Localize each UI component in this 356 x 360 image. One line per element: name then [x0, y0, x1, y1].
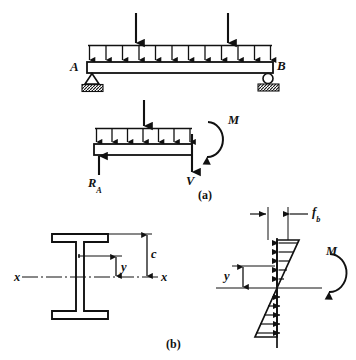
main-beam-group	[82, 13, 279, 92]
moment-label-m-stress: M	[326, 245, 337, 258]
shear-label-v: V	[186, 175, 194, 188]
cross-section-group	[22, 234, 158, 319]
dimension-label-c: c	[151, 248, 157, 261]
support-label-b: B	[277, 59, 286, 72]
distributed-load-arrows	[90, 46, 271, 60]
figure-canvas	[0, 0, 356, 360]
reaction-label-ra: RA	[88, 177, 102, 193]
stress-distribution-group	[216, 207, 347, 348]
support-label-a: A	[70, 60, 79, 73]
compression-stress-wedge	[277, 240, 299, 288]
free-body-group	[94, 100, 223, 175]
moment-arrow-m	[207, 122, 223, 157]
point-load-arrows	[136, 13, 228, 43]
tension-stress-wedge	[255, 288, 277, 337]
fbd-segment-body	[94, 144, 192, 155]
support-roller-b	[258, 74, 279, 92]
reaction-label-subscript: A	[96, 186, 102, 195]
axis-label-x-left: x	[14, 271, 20, 284]
fbd-distributed-load-arrows	[97, 129, 191, 142]
caption-b: (b)	[166, 338, 181, 350]
support-pin-a	[82, 74, 103, 92]
axis-label-x-right: x	[161, 271, 167, 284]
stress-label-fb: fb	[312, 206, 320, 222]
beam-bending-figure: A B RA V M (a) x x y c fb y M (b)	[0, 0, 356, 360]
stress-dimension-label-y: y	[224, 270, 230, 283]
dimension-label-y: y	[121, 261, 127, 274]
beam-body	[87, 62, 273, 73]
caption-a: (a)	[198, 189, 212, 201]
moment-label-m-fbd: M	[228, 114, 239, 127]
stress-moment-arrow-m	[329, 254, 347, 292]
stress-label-subscript: b	[316, 215, 320, 224]
